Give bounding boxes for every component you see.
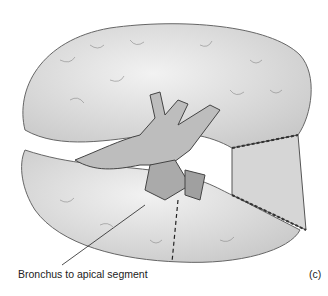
- lung-illustration: [0, 0, 328, 296]
- annotation-label: Bronchus to apical segment: [18, 268, 148, 280]
- panel-label: (c): [309, 268, 321, 280]
